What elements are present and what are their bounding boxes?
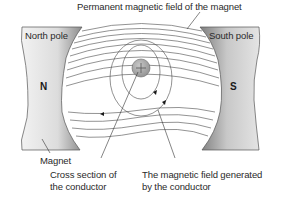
title-leader bbox=[187, 12, 200, 29]
north-pole-label: North pole bbox=[25, 30, 68, 41]
north-magnet bbox=[21, 27, 82, 150]
south-letter: S bbox=[230, 81, 237, 92]
magnet-label: Magnet bbox=[40, 155, 71, 166]
conductor-label-line2: the conductor bbox=[50, 181, 106, 192]
field-label-line2: by the conductor bbox=[142, 181, 211, 192]
south-pole-label: South pole bbox=[209, 30, 253, 41]
field-leader bbox=[158, 110, 175, 158]
arrowheads bbox=[100, 90, 166, 116]
conductor-leader bbox=[101, 72, 138, 158]
field-label-line1: The magnetic field generated bbox=[142, 169, 262, 180]
conductor-label-line1: Cross section of bbox=[50, 169, 117, 180]
permanent-field-lines bbox=[66, 24, 219, 138]
permanent-field-label: Permanent magnetic field of the magnet bbox=[77, 1, 242, 12]
north-letter: N bbox=[40, 81, 47, 92]
